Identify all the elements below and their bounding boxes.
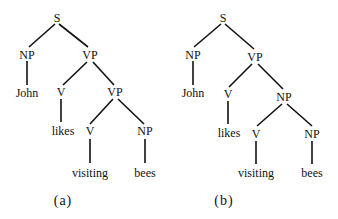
- caption-b: (b): [214, 195, 233, 207]
- word-likes: likes: [218, 127, 241, 139]
- node-np: NP: [185, 49, 200, 61]
- node-s: S: [220, 12, 227, 24]
- word-bees: bees: [301, 167, 322, 179]
- node-vp: VP: [82, 49, 97, 61]
- node-vp-inner: VP: [107, 86, 122, 98]
- node-v: V: [224, 88, 233, 100]
- word-john: John: [182, 87, 205, 99]
- node-np-inner: NP: [137, 125, 152, 137]
- word-bees: bees: [134, 167, 155, 179]
- node-v-inner: V: [86, 125, 95, 137]
- node-s: S: [54, 12, 61, 24]
- node-vp: VP: [247, 51, 262, 63]
- node-np-inner: NP: [304, 128, 319, 140]
- node-v: V: [57, 86, 66, 98]
- node-np: NP: [19, 49, 34, 61]
- caption-a: (a): [54, 195, 73, 207]
- word-visiting: visiting: [238, 167, 274, 179]
- word-visiting: visiting: [72, 167, 108, 179]
- node-np-mid: NP: [276, 91, 291, 103]
- node-v-inner: V: [252, 128, 261, 140]
- word-likes: likes: [52, 125, 75, 137]
- word-john: John: [16, 87, 39, 99]
- tree-edges: [0, 0, 338, 219]
